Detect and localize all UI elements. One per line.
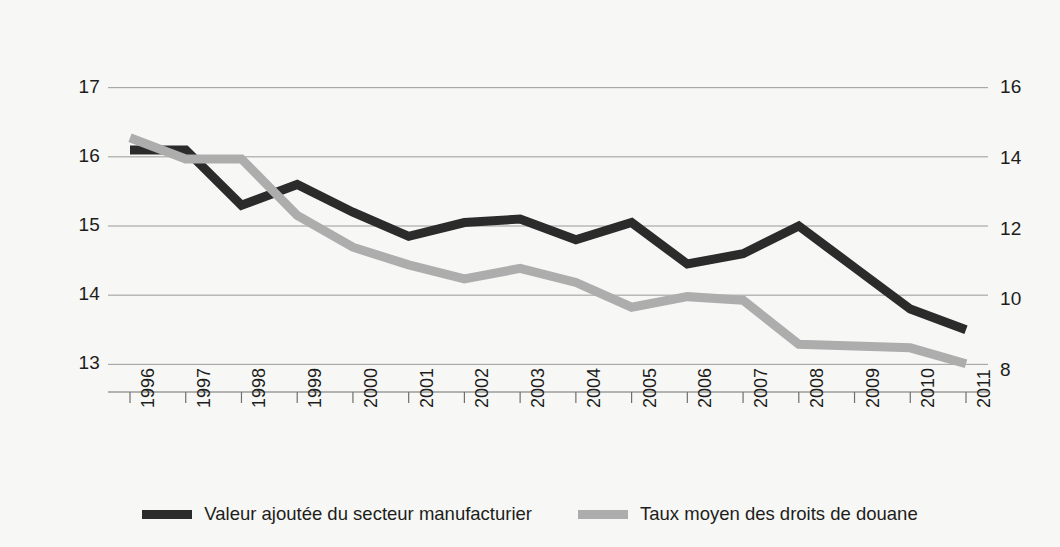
legend-item: Valeur ajoutée du secteur manufacturier	[142, 503, 532, 525]
chart-legend: Valeur ajoutée du secteur manufacturierT…	[0, 494, 1060, 534]
legend-label: Taux moyen des droits de douane	[640, 503, 918, 525]
y-axis-left-tick-label: 15	[60, 214, 100, 236]
x-axis-tick-label: 1999	[305, 368, 326, 408]
x-axis-tick-label: 1997	[194, 368, 215, 408]
x-axis-tick-label: 2002	[472, 368, 493, 408]
legend-swatch-icon	[142, 510, 192, 519]
chart-svg	[0, 0, 1060, 547]
series-line	[130, 138, 966, 364]
x-axis-tick-label: 1998	[249, 368, 270, 408]
legend-swatch-icon	[578, 510, 628, 519]
y-axis-right-tick-label: 12	[1000, 218, 1040, 240]
y-axis-right-tick-label: 14	[1000, 147, 1040, 169]
x-axis-tick-label: 2004	[584, 368, 605, 408]
y-axis-right-tick-label: 10	[1000, 288, 1040, 310]
x-axis-tick-label: 2011	[974, 369, 995, 408]
x-axis-tick-label: 2008	[807, 368, 828, 408]
chart-plot-area: 1314151617810121416199619971998199920002…	[0, 0, 1060, 547]
y-axis-left-tick-label: 17	[60, 76, 100, 98]
x-axis-tick-label: 2009	[863, 368, 884, 408]
y-axis-right-tick-label: 16	[1000, 76, 1040, 98]
x-axis-tick-label: 2006	[695, 368, 716, 408]
x-axis-tick-label: 2003	[528, 368, 549, 408]
legend-item: Taux moyen des droits de douane	[578, 503, 918, 525]
x-axis-tick-label: 2000	[361, 368, 382, 408]
y-axis-left-tick-label: 16	[60, 145, 100, 167]
x-axis-tick-label: 1996	[138, 368, 159, 408]
y-axis-right-tick-label: 8	[1000, 359, 1040, 381]
chart-figure: 1314151617810121416199619971998199920002…	[0, 0, 1060, 547]
x-axis-tick-label: 2010	[918, 368, 939, 408]
x-axis-tick-label: 2007	[751, 368, 772, 408]
y-axis-left-tick-label: 13	[60, 352, 100, 374]
y-axis-left-tick-label: 14	[60, 283, 100, 305]
x-axis-tick-label: 2005	[640, 368, 661, 408]
x-axis-tick-label: 2001	[417, 368, 438, 408]
legend-label: Valeur ajoutée du secteur manufacturier	[204, 503, 532, 525]
